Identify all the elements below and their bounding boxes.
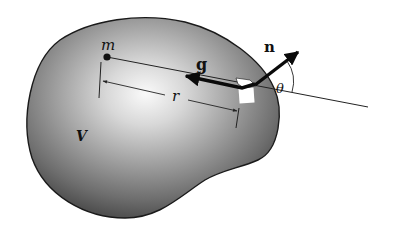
theta-label: θ [276,81,284,96]
gauss-law-diagram: m g n θ r V [0,0,401,241]
surface-element [239,87,255,103]
body-volume [27,18,279,218]
g-label: g [196,55,207,74]
mass-label: m [101,36,115,54]
diagram-canvas: m g n θ r V [0,0,401,241]
n-label: n [264,38,275,56]
mass-point [103,53,110,60]
theta-arc [287,61,294,92]
r-label: r [172,87,180,105]
